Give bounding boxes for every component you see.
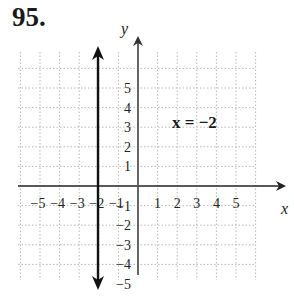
- tick-label: −1: [116, 199, 131, 214]
- tick-label: 1: [154, 196, 161, 211]
- y-tick-labels-negative: −1−2−3−4−5: [116, 199, 131, 292]
- tick-label: −5: [31, 196, 46, 211]
- tick-label: −3: [70, 196, 85, 211]
- tick-label: −4: [116, 257, 131, 272]
- tick-label: −2: [116, 218, 131, 233]
- y-tick-labels-positive: 54321: [124, 81, 131, 174]
- tick-label: 2: [124, 140, 131, 155]
- tick-label: −5: [116, 277, 131, 292]
- tick-label: 3: [193, 196, 200, 211]
- x-tick-labels-positive: 12345: [154, 196, 239, 211]
- tick-label: 2: [174, 196, 181, 211]
- tick-label: 1: [124, 159, 131, 174]
- tick-label: 5: [124, 81, 131, 96]
- tick-label: −4: [50, 196, 65, 211]
- tick-label: 3: [124, 120, 131, 135]
- tick-label: 4: [124, 101, 131, 116]
- tick-label: 4: [213, 196, 220, 211]
- grid: [18, 52, 256, 280]
- tick-label: −2: [89, 196, 104, 211]
- y-axis-label: y: [119, 20, 129, 38]
- tick-label: −3: [116, 238, 131, 253]
- x-axis-label: x: [280, 200, 288, 217]
- coordinate-plane: y x x = −2 −5−4−3−2−1 12345 54321 −1−2−3…: [0, 0, 294, 299]
- equation-label: x = −2: [172, 113, 217, 132]
- x-tick-labels-negative: −5−4−3−2−1: [31, 196, 124, 211]
- tick-label: 5: [233, 196, 240, 211]
